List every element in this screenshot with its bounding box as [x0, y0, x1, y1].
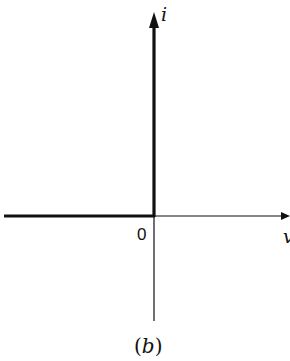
x-axis-label: v — [283, 227, 290, 246]
origin-label: 0 — [137, 226, 146, 243]
x-axis-arrow-icon — [281, 212, 290, 220]
figure-caption: (b) — [134, 334, 162, 358]
y-axis-label: i — [161, 5, 167, 24]
caption-letter: b — [142, 334, 155, 358]
iv-plot — [0, 0, 290, 361]
y-axis-arrow-icon — [149, 12, 159, 28]
caption-open-paren: ( — [134, 334, 142, 358]
caption-close-paren: ) — [155, 334, 163, 358]
